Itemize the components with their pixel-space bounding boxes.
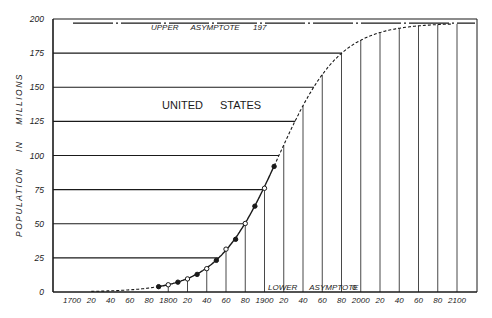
upper-asymptote-value: 197 — [253, 23, 267, 32]
x-tick-label-1980: 80 — [337, 296, 346, 305]
vertical-gridlines — [168, 24, 457, 292]
data-point-1900 — [262, 186, 266, 190]
x-tick-label-2100: 2100 — [447, 296, 466, 305]
x-tick-label-1860: 60 — [222, 296, 231, 305]
upper-asymptote-label: UPPER ASYMPTOTE — [151, 23, 240, 32]
x-tick-label-1740: 40 — [106, 296, 115, 305]
x-tick-label-1940: 40 — [299, 296, 308, 305]
x-tick-label-1700: 1700 — [63, 296, 81, 305]
x-tick-label-2000: 2000 — [351, 296, 370, 305]
x-tick-label-1960: 60 — [318, 296, 327, 305]
y-tick-label-50: 50 — [35, 219, 45, 229]
x-tick-labels: 1700204060801800204060801900204060802000… — [63, 296, 466, 305]
y-tick-label-200: 200 — [29, 14, 44, 24]
x-tick-label-1820: 20 — [182, 296, 192, 305]
data-point-1860 — [224, 247, 228, 251]
data-point-1910 — [272, 164, 276, 168]
y-tick-labels: 0255075100125150175200 — [29, 14, 44, 297]
united-states-annotation: UNITED STATES — [162, 99, 261, 111]
x-tick-label-1900: 1900 — [256, 296, 274, 305]
data-point-1880 — [243, 221, 247, 225]
data-point-1800 — [166, 283, 170, 287]
data-point-1790 — [156, 284, 160, 288]
x-tick-label-2040: 40 — [395, 296, 404, 305]
y-axis-label: POPULATION IN MILLIONS — [14, 73, 24, 237]
y-tick-label-75: 75 — [35, 185, 45, 195]
curve-early-dashed — [91, 287, 158, 292]
data-point-1810 — [176, 280, 180, 284]
data-point-1830 — [195, 272, 199, 276]
data-point-1840 — [205, 266, 209, 270]
x-tick-label-2080: 80 — [433, 296, 442, 305]
horizontal-gridlines — [53, 53, 342, 258]
data-point-1890 — [253, 204, 257, 208]
data-point-1820 — [185, 277, 189, 281]
x-tick-label-1920: 20 — [278, 296, 288, 305]
curve-projected-dashed — [274, 24, 452, 166]
x-tick-label-1840: 40 — [202, 296, 211, 305]
y-tick-label-175: 175 — [30, 48, 44, 58]
data-point-1850 — [214, 258, 218, 262]
x-tick-label-2060: 60 — [414, 296, 423, 305]
data-points — [156, 164, 276, 289]
y-tick-label-150: 150 — [30, 82, 44, 92]
y-tick-label-0: 0 — [39, 287, 44, 297]
y-tick-label-125: 125 — [30, 116, 44, 126]
logistic-curve — [91, 24, 452, 291]
logistic-population-chart: 0255075100125150175200 17002040608018002… — [0, 0, 492, 318]
x-tick-label-1800: 1800 — [159, 296, 177, 305]
lower-asymptote-label: LOWER ASYMPTOTE — [268, 283, 359, 292]
x-tick-label-1760: 60 — [125, 296, 134, 305]
lower-asymptote-value: 0 — [352, 283, 357, 292]
curve-observed-solid — [159, 166, 275, 287]
y-tick-label-25: 25 — [34, 253, 45, 263]
y-tick-label-100: 100 — [30, 151, 44, 161]
data-point-1870 — [233, 237, 237, 241]
x-tick-label-1780: 80 — [145, 296, 154, 305]
x-tick-label-2020: 20 — [375, 296, 385, 305]
x-tick-label-1720: 20 — [86, 296, 96, 305]
x-tick-label-1880: 80 — [241, 296, 250, 305]
